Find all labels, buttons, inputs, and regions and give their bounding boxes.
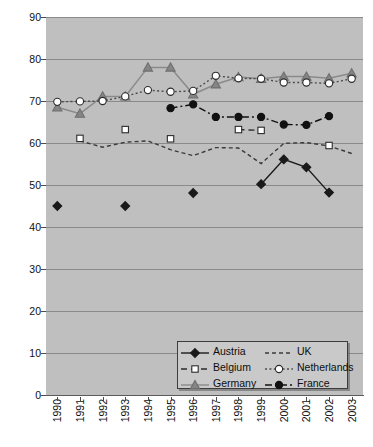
legend-symbol-uk-icon [264, 345, 294, 357]
data-point-belgium-1999 [258, 127, 264, 133]
data-point-belgium-2002 [326, 142, 332, 148]
x-tick-label-1999: 1999 [255, 399, 267, 422]
series-uk [80, 141, 352, 164]
x-tick-label-2000: 2000 [278, 399, 290, 422]
data-point-austria-1993 [121, 202, 130, 211]
x-tick-mark-1997 [216, 397, 217, 401]
x-tick-label-2003: 2003 [346, 399, 358, 422]
x-axis: 1990199119921993199419951996199719981999… [46, 397, 363, 447]
legend-label-austria: Austria [213, 345, 246, 357]
y-tick-label-80: 80 [0, 53, 41, 65]
data-point-netherlands-1990 [54, 98, 61, 105]
x-tick-mark-1996 [193, 397, 194, 401]
y-tick-label-70: 70 [0, 95, 41, 107]
legend-item-belgium[interactable]: Belgium [180, 360, 264, 375]
data-point-belgium-1998 [235, 126, 241, 132]
y-tick-label-60: 60 [0, 137, 41, 149]
legend-label-france: France [297, 377, 330, 389]
data-point-netherlands-1999 [258, 75, 265, 82]
series-belgium [77, 126, 332, 148]
data-point-netherlands-1996 [190, 87, 197, 94]
y-tick-label-40: 40 [0, 221, 41, 233]
data-point-france-1999 [258, 113, 265, 120]
x-tick-label-1995: 1995 [165, 399, 177, 422]
x-tick-label-1997: 1997 [210, 399, 222, 422]
legend-symbol-belgium-icon [180, 361, 210, 373]
x-tick-mark-1998 [238, 397, 239, 401]
y-tick-mark-50 [41, 185, 46, 186]
x-tick-label-1996: 1996 [187, 399, 199, 422]
data-point-belgium-1995 [167, 136, 173, 142]
x-tick-mark-2003 [352, 397, 353, 401]
data-point-france-1998 [235, 113, 242, 120]
y-tick-label-10: 10 [0, 347, 41, 359]
x-tick-label-1993: 1993 [119, 399, 131, 422]
line-chart: 0102030405060708090 19901991199219931994… [0, 0, 373, 447]
x-tick-mark-1993 [125, 397, 126, 401]
data-point-netherlands-1992 [99, 97, 106, 104]
y-tick-mark-80 [41, 59, 46, 60]
legend-symbol-france-icon [264, 377, 294, 389]
y-tick-mark-10 [41, 353, 46, 354]
x-tick-mark-1995 [171, 397, 172, 401]
x-tick-label-1994: 1994 [142, 399, 154, 422]
y-tick-mark-60 [41, 143, 46, 144]
legend-item-uk[interactable]: UK [264, 344, 351, 359]
y-tick-mark-90 [41, 17, 46, 18]
data-point-france-1997 [212, 113, 219, 120]
y-tick-label-20: 20 [0, 305, 41, 317]
x-tick-mark-1994 [148, 397, 149, 401]
x-tick-mark-1992 [103, 397, 104, 401]
legend-item-france[interactable]: France [264, 376, 351, 391]
legend-item-germany[interactable]: Germany [180, 376, 264, 391]
y-tick-mark-0 [41, 395, 46, 396]
data-point-netherlands-1991 [76, 98, 83, 105]
x-tick-label-2001: 2001 [300, 399, 312, 422]
legend-item-netherlands[interactable]: Netherlands [264, 360, 351, 375]
x-tick-label-1991: 1991 [74, 399, 86, 422]
y-tick-label-90: 90 [0, 11, 41, 23]
data-point-netherlands-1995 [167, 88, 174, 95]
series-germany [53, 63, 357, 117]
plot-area [46, 17, 363, 395]
y-tick-label-30: 30 [0, 263, 41, 275]
y-axis: 0102030405060708090 [0, 0, 41, 447]
data-point-netherlands-1997 [212, 72, 219, 79]
data-point-france-1996 [190, 101, 197, 108]
x-tick-mark-1999 [261, 397, 262, 401]
x-tick-label-2002: 2002 [323, 399, 335, 422]
legend-symbol-germany-icon [180, 377, 210, 389]
series-layer [46, 17, 363, 395]
data-point-france-1995 [167, 105, 174, 112]
data-point-netherlands-2002 [325, 80, 332, 87]
y-tick-mark-70 [41, 101, 46, 102]
legend-label-uk: UK [297, 345, 312, 357]
data-point-netherlands-1993 [122, 93, 129, 100]
y-tick-label-0: 0 [0, 389, 41, 401]
chart-legend: AustriaUKBelgiumNetherlandsGermanyFrance [177, 341, 348, 389]
legend-label-germany: Germany [213, 377, 256, 389]
data-point-belgium-1993 [122, 126, 128, 132]
data-point-belgium-1991 [77, 135, 83, 141]
data-point-netherlands-1994 [144, 86, 151, 93]
y-tick-label-50: 50 [0, 179, 41, 191]
series-line-uk [80, 141, 352, 164]
data-point-france-2001 [303, 121, 310, 128]
data-point-austria-1990 [53, 202, 62, 211]
data-point-france-2002 [325, 113, 332, 120]
x-tick-mark-1991 [80, 397, 81, 401]
x-tick-mark-2000 [284, 397, 285, 401]
legend-symbol-austria-icon [180, 345, 210, 357]
data-point-netherlands-1998 [235, 75, 242, 82]
x-tick-label-1998: 1998 [232, 399, 244, 422]
x-tick-label-1992: 1992 [97, 399, 109, 422]
data-point-austria-1996 [189, 189, 198, 198]
y-tick-mark-20 [41, 311, 46, 312]
legend-item-austria[interactable]: Austria [180, 344, 264, 359]
y-tick-mark-30 [41, 269, 46, 270]
legend-symbol-netherlands-icon [264, 361, 294, 373]
y-tick-mark-40 [41, 227, 46, 228]
data-point-netherlands-2003 [348, 75, 355, 82]
x-tick-mark-2001 [306, 397, 307, 401]
legend-label-belgium: Belgium [213, 361, 251, 373]
